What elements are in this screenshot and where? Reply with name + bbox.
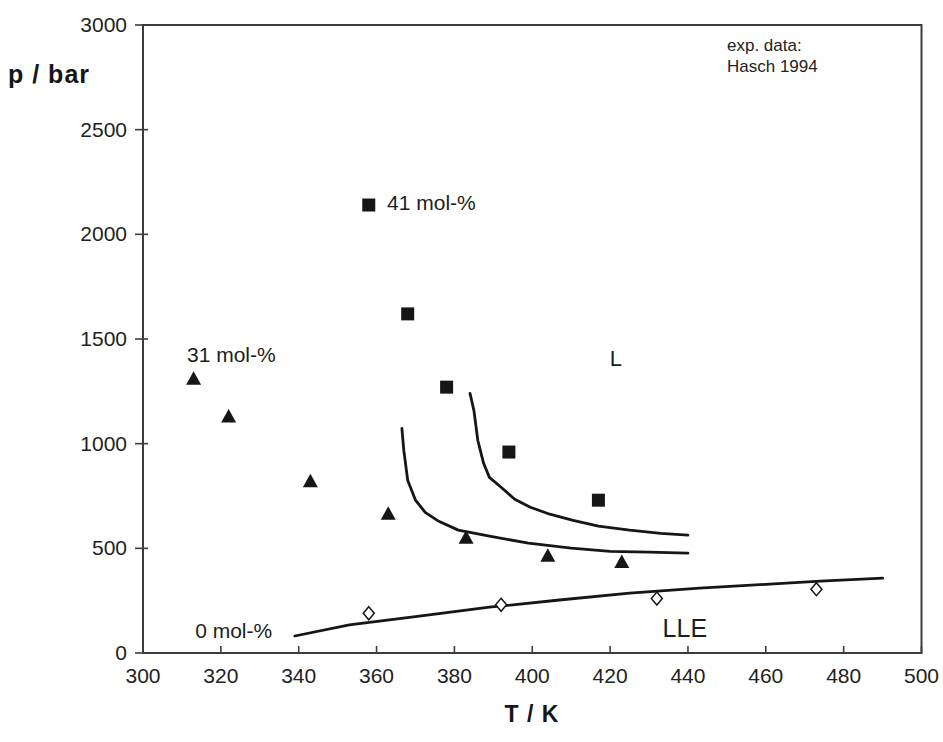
marker-filled-triangle [186,371,201,385]
marker-open-diamond [651,592,662,605]
x-tick-label: 400 [515,664,550,687]
marker-filled-triangle [540,548,555,562]
model-curve-31-mol-line [402,428,688,553]
y-tick-label: 500 [92,536,127,559]
x-tick-label: 500 [904,664,939,687]
series-label-41: 41 mol-% [387,191,476,214]
x-tick-label: 300 [125,664,160,687]
y-axis-title: p / bar [8,60,90,89]
region-label-LLE: LLE [663,614,707,642]
legend: exp. data: Hasch 1994 [727,35,818,77]
x-tick-label: 440 [670,664,705,687]
series-label-31: 31 mol-% [187,343,276,366]
x-tick-label: 380 [437,664,472,687]
marker-filled-square [592,494,605,507]
y-tick-label: 1000 [80,432,127,455]
marker-open-diamond [363,607,374,620]
marker-filled-square [440,381,453,394]
lle-boundary-curve-line [295,578,883,636]
y-tick-label: 1500 [80,327,127,350]
x-tick-label: 480 [826,664,861,687]
y-tick-label: 0 [115,641,127,664]
x-axis-title: T / K [486,701,578,728]
model-curve-41-mol-line [470,393,688,535]
x-tick-label: 360 [359,664,394,687]
legend-line-exp-data: exp. data: [727,35,818,56]
marker-filled-triangle [614,554,629,568]
marker-open-diamond [811,583,822,596]
marker-filled-square [502,446,515,459]
marker-filled-square [362,199,375,212]
chart-canvas: 3003203403603804004204404604805000500100… [0,0,943,742]
legend-line-source: Hasch 1994 [727,56,818,77]
marker-filled-triangle [221,409,236,423]
pt-phase-diagram-figure: 3003203403603804004204404604805000500100… [0,0,943,742]
y-tick-label: 3000 [80,13,127,36]
region-label-L: L [610,346,622,371]
x-tick-label: 460 [748,664,783,687]
marker-open-diamond [496,598,507,611]
marker-filled-triangle [303,474,318,488]
y-tick-label: 2000 [80,222,127,245]
marker-filled-square [401,307,414,320]
series-label-0: 0 mol-% [195,619,272,642]
plot-frame [143,25,922,653]
y-tick-label: 2500 [80,118,127,141]
x-tick-label: 420 [593,664,628,687]
marker-filled-triangle [381,506,396,520]
x-tick-label: 340 [281,664,316,687]
x-tick-label: 320 [203,664,238,687]
